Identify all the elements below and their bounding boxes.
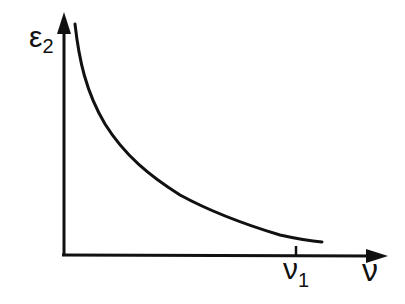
epsilon2-curve xyxy=(75,24,322,242)
nu1-tick-label: ν1 xyxy=(283,252,309,292)
y-axis-arrow-icon xyxy=(57,12,71,34)
x-axis xyxy=(62,246,388,263)
x-axis-label: ν xyxy=(362,252,378,289)
y-axis xyxy=(57,12,71,256)
y-axis-label: ε2 xyxy=(29,20,54,58)
diagram-canvas xyxy=(0,0,405,304)
